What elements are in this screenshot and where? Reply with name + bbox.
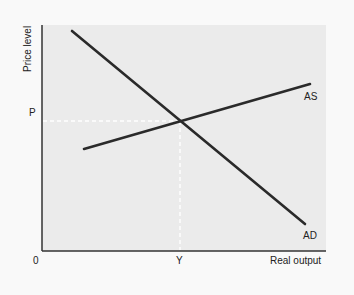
x-axis-label: Real output: [270, 256, 321, 266]
plot-area: [42, 25, 326, 251]
y-axis-label: Price level: [22, 26, 33, 72]
origin-label: 0: [33, 256, 39, 266]
ad-as-chart: [0, 0, 354, 295]
output-tick-label: Y: [176, 256, 183, 266]
price-tick-label: P: [29, 108, 36, 118]
as-curve-label: AS: [304, 92, 317, 102]
ad-curve-label: AD: [303, 231, 317, 241]
